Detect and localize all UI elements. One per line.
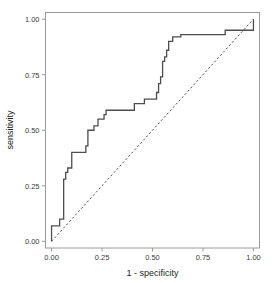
y-tick-label: 1.00 <box>25 15 40 24</box>
y-tick-label: 0.75 <box>25 71 40 80</box>
roc-curve-figure: 0.000.250.500.751.00 0.000.250.500.751.0… <box>0 0 275 283</box>
x-tick-label: 0.75 <box>196 253 211 262</box>
x-tick-label: 0.00 <box>44 253 59 262</box>
x-tick-label: 0.25 <box>95 253 110 262</box>
x-tick-label: 1.00 <box>246 253 261 262</box>
y-axis-title: sensitivity <box>5 110 15 150</box>
y-tick-label: 0.25 <box>25 182 40 191</box>
x-axis-title: 1 - specificity <box>126 268 179 278</box>
y-tick-label: 0.00 <box>25 237 40 246</box>
roc-plot-svg: 0.000.250.500.751.00 0.000.250.500.751.0… <box>0 0 275 283</box>
figure-background <box>0 0 275 283</box>
x-tick-label: 0.50 <box>145 253 160 262</box>
y-tick-label: 0.50 <box>25 126 40 135</box>
